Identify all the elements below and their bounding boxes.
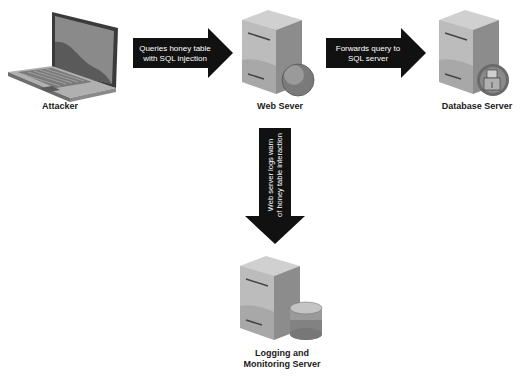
attacker-label: Attacker xyxy=(25,101,95,112)
edge-label-line2: SQL server xyxy=(330,54,406,64)
edge-label-line1: Queries honey table xyxy=(137,44,213,54)
edge-label-line1: Forwards query to xyxy=(330,44,406,54)
logging-server-label-line2: Monitoring Server xyxy=(232,359,332,370)
edge-label-line2: with SQL injection xyxy=(137,54,213,64)
database-server-label: Database Server xyxy=(432,101,522,112)
edge-label: Web server logs warn of honey table inte… xyxy=(266,128,284,222)
laptop-icon xyxy=(0,0,125,100)
database-server-icon xyxy=(437,8,517,98)
edge-label-line2: of honey table interaction xyxy=(275,128,284,222)
edge-label-line1: Web server logs warn xyxy=(266,128,275,222)
logging-server-label-line1: Logging and xyxy=(232,348,332,359)
logging-server-label: Logging and Monitoring Server xyxy=(232,348,332,370)
web-server-label: Web Sever xyxy=(245,101,315,112)
edge-label: Queries honey table with SQL injection xyxy=(137,44,213,64)
logging-server-icon xyxy=(238,254,328,344)
web-server-icon xyxy=(240,8,320,98)
edge-label: Forwards query to SQL server xyxy=(330,44,406,64)
